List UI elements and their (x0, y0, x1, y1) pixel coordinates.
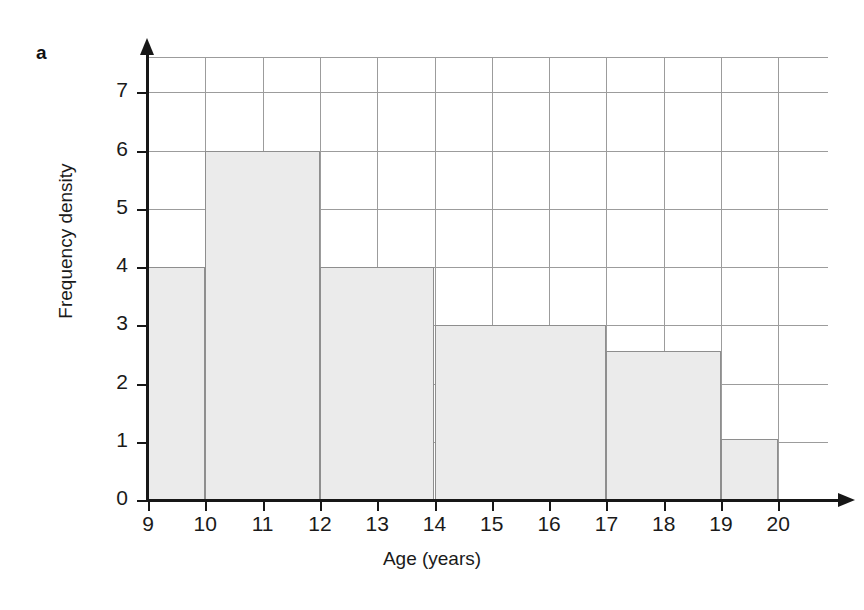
plot-area (148, 58, 828, 500)
bar-series (148, 58, 828, 500)
y-tick-mark (137, 151, 149, 153)
x-tick-mark (320, 500, 322, 511)
y-tick-label: 4 (98, 253, 128, 277)
x-tick-mark (664, 500, 666, 511)
y-tick-label: 7 (98, 78, 128, 102)
x-tick-label: 9 (126, 512, 170, 536)
histogram-bar (435, 325, 607, 500)
x-tick-label: 17 (584, 512, 628, 536)
x-tick-label: 10 (183, 512, 227, 536)
histogram-bar (148, 267, 205, 500)
y-axis-line (146, 52, 149, 502)
y-tick-label: 5 (98, 195, 128, 219)
y-tick-mark (137, 209, 149, 211)
y-tick-label: 2 (98, 370, 128, 394)
y-tick-mark (137, 442, 149, 444)
histogram-figure: a 01234567 91011121314151617181920 Frequ… (0, 0, 864, 610)
panel-label: a (36, 42, 47, 64)
x-tick-mark (606, 500, 608, 511)
histogram-bar (320, 267, 435, 500)
y-tick-mark (137, 92, 149, 94)
histogram-bar (721, 439, 778, 500)
x-tick-mark (148, 500, 150, 511)
x-axis-title: Age (years) (0, 548, 864, 570)
x-tick-mark (492, 500, 494, 511)
histogram-bar (606, 351, 721, 500)
x-tick-mark (549, 500, 551, 511)
y-tick-mark (137, 325, 149, 327)
y-tick-label: 6 (98, 137, 128, 161)
x-tick-label: 16 (527, 512, 571, 536)
x-tick-mark (721, 500, 723, 511)
x-tick-label: 18 (642, 512, 686, 536)
x-tick-label: 11 (241, 512, 285, 536)
x-tick-label: 12 (298, 512, 342, 536)
x-tick-mark (778, 500, 780, 511)
histogram-bar (205, 151, 320, 501)
x-tick-mark (377, 500, 379, 511)
x-tick-label: 19 (699, 512, 743, 536)
y-tick-mark (137, 267, 149, 269)
y-tick-mark (137, 384, 149, 386)
y-tick-label: 0 (98, 486, 128, 510)
x-tick-label: 15 (470, 512, 514, 536)
y-tick-label: 1 (98, 428, 128, 452)
y-axis-title: Frequency density (55, 111, 77, 371)
x-axis-arrow-icon (838, 493, 855, 507)
x-tick-label: 14 (413, 512, 457, 536)
x-tick-mark (205, 500, 207, 511)
x-tick-mark (435, 500, 437, 511)
x-tick-label: 13 (355, 512, 399, 536)
y-tick-label: 3 (98, 311, 128, 335)
x-tick-label: 20 (756, 512, 800, 536)
x-tick-mark (263, 500, 265, 511)
y-axis-arrow-icon (140, 38, 154, 55)
